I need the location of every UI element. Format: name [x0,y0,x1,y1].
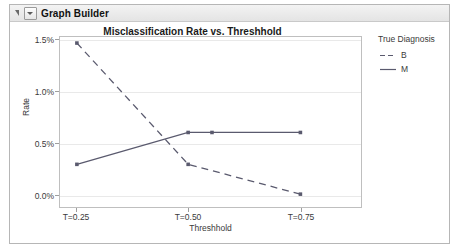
legend-label-B: B [401,50,407,60]
y-tick-label-1.0: 1.0% [10,87,54,97]
data-point-M-3[interactable] [299,131,303,135]
plot-svg [60,37,361,207]
x-tick-label-2: T=0.75 [266,212,336,222]
series-line-M [77,132,301,164]
red-triangle-menu-icon[interactable] [24,7,37,20]
graph-builder-panel: Graph Builder Misclassification Rate vs.… [9,4,450,244]
plot-frame [59,36,362,208]
data-point-M-0[interactable] [75,163,79,167]
chart-area: Misclassification Rate vs. Threshhold Ra… [10,22,449,243]
legend-swatch-solid-icon [380,66,396,73]
panel-titlebar[interactable]: Graph Builder [10,5,449,22]
legend-title: True Diagnosis [378,34,452,44]
x-tick-label-0: T=0.25 [41,212,111,222]
x-tick-label-1: T=0.50 [153,212,223,222]
y-tick-label-0.0: 0.0% [10,191,54,201]
legend-item-B[interactable]: B [378,49,452,61]
x-axis-label: Threshhold [59,223,362,233]
data-point-M-2[interactable] [210,131,214,135]
data-point-B-1[interactable] [186,163,190,167]
legend-item-M[interactable]: M [378,63,452,75]
data-point-B-2[interactable] [299,192,303,196]
y-tick-label-1.5: 1.5% [10,35,54,45]
panel-title: Graph Builder [41,8,109,19]
y-tick-label-0.5: 0.5% [10,139,54,149]
chart-legend: True Diagnosis B M [378,34,452,77]
triangle-collapse-icon[interactable] [14,9,23,18]
legend-swatch-dashed-icon [380,52,396,59]
legend-label-M: M [401,64,408,74]
series-line-B [77,43,301,194]
data-point-B-0[interactable] [75,41,79,45]
data-point-M-1[interactable] [186,131,190,135]
graph-builder-window: Graph Builder Misclassification Rate vs.… [0,0,459,252]
